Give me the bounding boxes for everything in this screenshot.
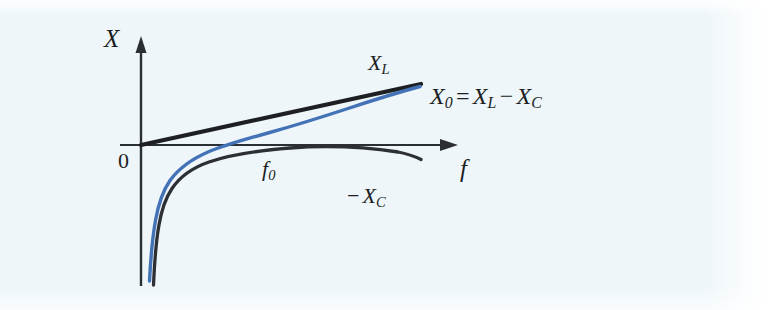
x-axis-label: f — [460, 156, 467, 181]
scan-band-right — [703, 0, 769, 310]
curve-label-minus-xc: −XC — [344, 185, 386, 210]
x0-term2-subscript: C — [531, 94, 542, 111]
xl-base: X — [368, 50, 381, 75]
x0-term2-base: X — [517, 83, 532, 109]
curve-label-x0-equation: X0=XL−XC — [430, 84, 542, 111]
y-axis — [136, 36, 147, 286]
x0-lhs-base: X — [430, 83, 445, 109]
x0-minus-sign: − — [496, 83, 516, 109]
minus-xc-sign: − — [344, 183, 363, 208]
f0-subscript: 0 — [268, 167, 275, 183]
x0-lhs-subscript: 0 — [445, 94, 453, 111]
curve-minus-xc-main — [154, 152, 279, 285]
origin-label: 0 — [118, 150, 129, 172]
curve-xl — [141, 84, 421, 145]
curve-label-xl: XL — [368, 52, 390, 77]
xl-subscript: L — [381, 61, 389, 77]
minus-xc-subscript: C — [376, 194, 386, 210]
resonant-frequency-label: f0 — [262, 158, 275, 183]
reactance-figure: X f 0 XL X0=XL−XC f0 −XC — [0, 0, 769, 310]
minus-xc-base: X — [363, 183, 376, 208]
x0-term1-base: X — [473, 83, 488, 109]
curve-minus-xc-stroke — [154, 147, 422, 285]
x0-equals-sign: = — [453, 83, 473, 109]
y-axis-label: X — [104, 26, 119, 51]
